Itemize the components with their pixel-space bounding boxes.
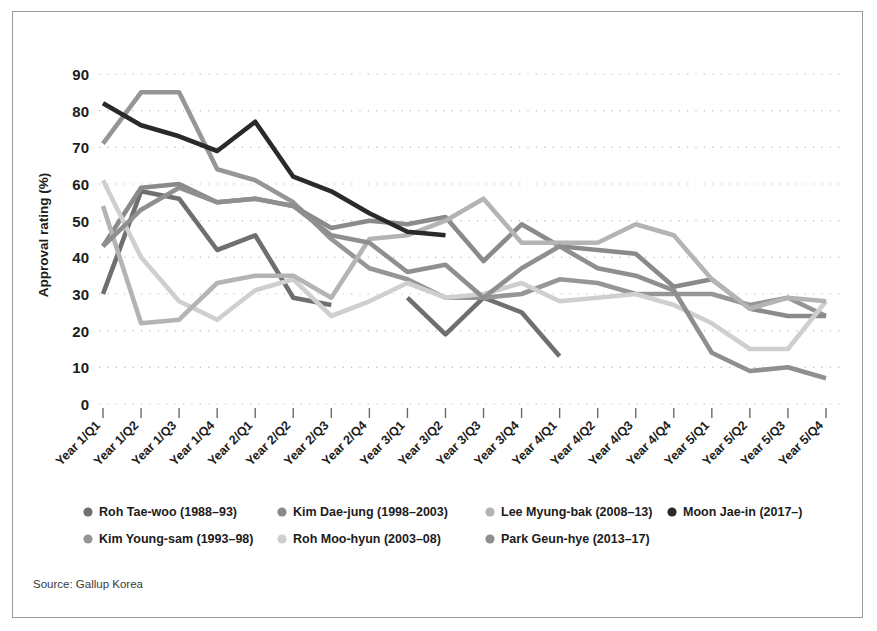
series-line	[103, 191, 560, 356]
legend-marker-dot-icon	[277, 534, 286, 543]
y-tick-label: 10	[72, 359, 89, 376]
legend-item[interactable]: Roh Moo-hyun (2003–08)	[277, 532, 441, 546]
legend-item[interactable]: Kim Young-sam (1993–98)	[83, 532, 253, 546]
legend-item[interactable]: Kim Dae-jung (1998–2003)	[277, 505, 448, 519]
series-lines	[103, 92, 826, 378]
legend-label: Lee Myung-bak (2008–13)	[501, 505, 652, 519]
legend-label: Kim Young-sam (1993–98)	[99, 532, 253, 546]
y-tick-label: 70	[72, 139, 89, 156]
y-tick-label: 20	[72, 323, 89, 340]
legend-item[interactable]: Lee Myung-bak (2008–13)	[485, 505, 652, 519]
y-tick-label: 50	[72, 213, 89, 230]
legend-item[interactable]: Park Geun-hye (2013–17)	[485, 532, 649, 546]
legend-label: Kim Dae-jung (1998–2003)	[293, 505, 448, 519]
series-line	[103, 103, 446, 235]
series-line	[103, 199, 826, 324]
approval-rating-line-chart: 0102030405060708090 Year 1/Q1Year 1/Q2Ye…	[0, 0, 877, 631]
legend-marker-dot-icon	[83, 534, 92, 543]
legend-item[interactable]: Roh Tae-woo (1988–93)	[83, 505, 237, 519]
y-tick-label: 0	[81, 396, 89, 413]
legend-item[interactable]: Moon Jae-in (2017–)	[667, 505, 802, 519]
legend-label: Park Geun-hye (2013–17)	[501, 532, 650, 546]
legend-marker-dot-icon	[485, 507, 494, 516]
legend-label: Roh Tae-woo (1988–93)	[99, 505, 237, 519]
y-axis-title: Approval rating (%)	[36, 173, 51, 298]
legend-label: Roh Moo-hyun (2003–08)	[293, 532, 441, 546]
chart-page: 0102030405060708090 Year 1/Q1Year 1/Q2Ye…	[0, 0, 877, 631]
y-tick-label: 30	[72, 286, 89, 303]
legend-marker-dot-icon	[667, 507, 676, 516]
x-axis-tick-marks	[103, 408, 826, 418]
y-tick-label: 80	[72, 103, 89, 120]
source-note: Source: Gallup Korea	[33, 578, 144, 590]
x-axis-tick-labels: Year 1/Q1Year 1/Q2Year 1/Q3Year 1/Q4Year…	[53, 418, 826, 468]
legend-marker-dot-icon	[485, 534, 494, 543]
legend-marker-dot-icon	[83, 507, 92, 516]
y-tick-label: 60	[72, 176, 89, 193]
chart-legend: Roh Tae-woo (1988–93)Kim Dae-jung (1998–…	[83, 505, 802, 546]
legend-label: Moon Jae-in (2017–)	[683, 505, 802, 519]
series-line	[103, 180, 826, 349]
y-tick-label: 40	[72, 249, 89, 266]
y-tick-label: 90	[72, 66, 89, 83]
legend-marker-dot-icon	[277, 507, 286, 516]
y-axis-tick-labels: 0102030405060708090	[72, 66, 89, 413]
